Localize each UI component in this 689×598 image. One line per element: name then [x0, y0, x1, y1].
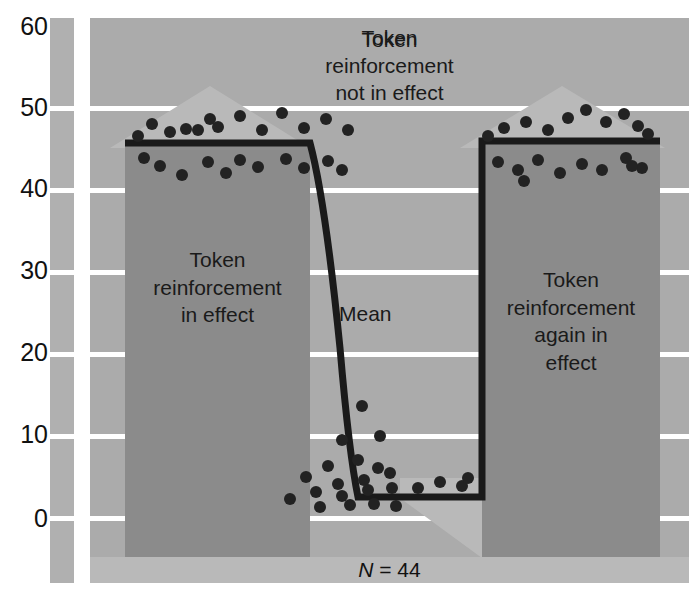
- data-point: [146, 118, 158, 130]
- data-point: [554, 167, 566, 179]
- data-point: [434, 476, 446, 488]
- data-point: [234, 110, 246, 122]
- data-point: [314, 501, 326, 513]
- data-point: [176, 169, 188, 181]
- sample-size-caption: N = 44: [90, 557, 689, 583]
- data-point: [320, 113, 332, 125]
- data-point: [384, 467, 396, 479]
- data-point: [532, 154, 544, 166]
- y-tick-label-40: 40: [20, 176, 48, 201]
- data-point: [372, 462, 384, 474]
- data-point: [322, 460, 334, 472]
- annotation-line: Token: [125, 246, 310, 274]
- data-point: [202, 156, 214, 168]
- annotation-line: reinforcement: [90, 52, 689, 80]
- annotation-line: not in effect: [90, 79, 689, 107]
- data-point: [154, 160, 166, 172]
- label-mean: Mean: [339, 302, 392, 326]
- data-point: [374, 430, 386, 442]
- plot-area: Token: [90, 18, 689, 583]
- data-point: [234, 154, 246, 166]
- data-point: [284, 493, 296, 505]
- data-point: [336, 164, 348, 176]
- data-point: [626, 160, 638, 172]
- data-point: [192, 124, 204, 136]
- data-point: [310, 486, 322, 498]
- data-point: [138, 152, 150, 164]
- strip-rule: [50, 434, 74, 439]
- annotation-line: in effect: [125, 301, 310, 329]
- chart-figure: 60 50 40 30 20 10 0 Token: [0, 0, 689, 598]
- strip-rule: [50, 270, 74, 275]
- data-point: [336, 490, 348, 502]
- data-point: [180, 123, 192, 135]
- data-point: [618, 108, 630, 120]
- data-point: [482, 130, 494, 142]
- y-axis: 60 50 40 30 20 10 0: [0, 0, 48, 598]
- data-point: [412, 482, 424, 494]
- data-point: [362, 484, 374, 496]
- data-point: [276, 107, 288, 119]
- data-point: [332, 478, 344, 490]
- y-tick-label-0: 0: [34, 506, 48, 531]
- strip-rule: [50, 106, 74, 111]
- data-point: [164, 126, 176, 138]
- caption-band: N = 44: [90, 557, 689, 583]
- data-point: [520, 116, 532, 128]
- annotation-line: effect: [482, 349, 660, 377]
- y-tick-label-20: 20: [20, 340, 48, 365]
- strip-rule: [50, 516, 74, 521]
- data-point: [368, 498, 380, 510]
- data-point: [600, 116, 612, 128]
- data-point: [204, 113, 216, 125]
- data-point: [632, 120, 644, 132]
- strip-rule: [50, 352, 74, 357]
- label-left-block: Tokenreinforcementin effect: [125, 246, 310, 329]
- data-point: [596, 164, 608, 176]
- scale-strip: [50, 18, 74, 583]
- annotation-line: Token: [90, 24, 689, 52]
- data-point: [252, 161, 264, 173]
- data-point: [132, 130, 144, 142]
- y-tick-label-30: 30: [20, 258, 48, 283]
- data-point: [342, 124, 354, 136]
- data-point: [386, 482, 398, 494]
- data-point: [642, 128, 654, 140]
- data-point: [576, 158, 588, 170]
- data-point: [336, 434, 348, 446]
- y-tick-label-60: 60: [20, 14, 48, 39]
- annotation-line: again in: [482, 321, 660, 349]
- sample-size-value: = 44: [379, 558, 420, 581]
- label-right-block: Tokenreinforcementagain ineffect: [482, 266, 660, 377]
- data-point: [344, 499, 356, 511]
- data-point: [220, 167, 232, 179]
- strip-rule: [50, 188, 74, 193]
- label-not-in-effect: Tokenreinforcementnot in effect: [90, 24, 689, 107]
- block-left: [125, 143, 310, 558]
- y-tick-label-10: 10: [20, 422, 48, 447]
- data-point: [518, 175, 530, 187]
- data-point: [462, 472, 474, 484]
- data-point: [298, 162, 310, 174]
- sample-size-symbol: N: [358, 558, 373, 581]
- data-point: [322, 155, 334, 167]
- data-point: [636, 162, 648, 174]
- data-point: [298, 122, 310, 134]
- annotation-line: reinforcement: [482, 294, 660, 322]
- data-point: [512, 164, 524, 176]
- data-point: [280, 153, 292, 165]
- data-point: [390, 500, 402, 512]
- data-point: [542, 124, 554, 136]
- annotation-line: reinforcement: [125, 274, 310, 302]
- data-point: [562, 112, 574, 124]
- data-point: [356, 400, 368, 412]
- y-tick-label-50: 50: [20, 95, 48, 120]
- data-point: [300, 471, 312, 483]
- data-point: [352, 454, 364, 466]
- data-point: [498, 122, 510, 134]
- data-point: [256, 124, 268, 136]
- annotation-line: Token: [482, 266, 660, 294]
- data-point: [492, 156, 504, 168]
